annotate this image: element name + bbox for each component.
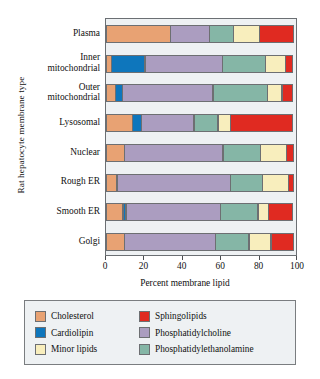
label-line: Smooth ER bbox=[14, 206, 100, 216]
label-line: Golgi bbox=[14, 236, 100, 246]
bar-segment bbox=[124, 144, 223, 162]
bar-segment bbox=[126, 203, 221, 221]
bar-segment bbox=[106, 174, 117, 192]
legend-label: Phosphatidylcholine bbox=[155, 328, 231, 338]
bar-segment bbox=[286, 144, 294, 162]
x-axis-tick bbox=[296, 256, 297, 260]
label-line: Plasma bbox=[14, 28, 100, 38]
legend-item: Cholesterol bbox=[35, 311, 139, 322]
stacked-bar bbox=[106, 55, 296, 73]
bar-segment bbox=[141, 114, 194, 132]
bar-segment bbox=[258, 203, 269, 221]
x-axis-tick-label: 40 bbox=[166, 261, 198, 271]
legend-label: Minor lipids bbox=[51, 344, 97, 354]
bar-segment bbox=[259, 25, 293, 43]
y-axis-category-labels: PlasmaInnermitochondrialOutermitochondri… bbox=[14, 18, 100, 256]
x-axis-tick-label: 0 bbox=[89, 261, 121, 271]
bar-segment bbox=[106, 233, 125, 251]
bar-segment bbox=[218, 114, 231, 132]
stacked-bar bbox=[106, 144, 296, 162]
legend-swatch bbox=[35, 311, 46, 322]
bar-segment bbox=[267, 84, 282, 102]
bar-row bbox=[106, 114, 296, 132]
legend: CholesterolSphingolipidsCardiolipinPhosp… bbox=[24, 300, 296, 365]
bar-segment bbox=[233, 25, 260, 43]
x-axis-tick bbox=[143, 256, 144, 260]
stacked-bar bbox=[106, 203, 296, 221]
x-axis-tick bbox=[220, 256, 221, 260]
label-line: mitochondrial bbox=[14, 92, 100, 102]
legend-item: Minor lipids bbox=[35, 344, 139, 355]
bar-segment bbox=[230, 174, 262, 192]
label-line: Lysosomal bbox=[14, 117, 100, 127]
bar-segment bbox=[282, 84, 293, 102]
x-axis-title: Percent membrane lipid bbox=[60, 278, 310, 288]
legend-swatch bbox=[139, 344, 150, 355]
y-axis-tick-label: Lysosomal bbox=[14, 117, 100, 127]
legend-label: Sphingolipids bbox=[155, 311, 207, 321]
bar-segment bbox=[215, 233, 249, 251]
stacked-bar bbox=[106, 174, 296, 192]
legend-item: Phosphatidylcholine bbox=[139, 327, 291, 338]
bar-segment bbox=[117, 174, 231, 192]
bar-segment bbox=[106, 114, 133, 132]
y-axis-tick-label: Smooth ER bbox=[14, 206, 100, 216]
label-line: Inner bbox=[14, 52, 100, 62]
legend-swatch bbox=[35, 344, 46, 355]
legend-entries: CholesterolSphingolipidsCardiolipinPhosp… bbox=[35, 308, 291, 358]
label-line: mitochondrial bbox=[14, 63, 100, 73]
bar-segment bbox=[106, 144, 125, 162]
stacked-bar bbox=[106, 84, 296, 102]
bar-row bbox=[106, 174, 296, 192]
bar-segment bbox=[209, 25, 234, 43]
y-axis-tick-label: Outermitochondrial bbox=[14, 82, 100, 103]
stacked-bar bbox=[106, 233, 296, 251]
bar-segment bbox=[106, 25, 171, 43]
stacked-bar-chart-figure: Rat hepatocyte membrane type PlasmaInner… bbox=[0, 0, 320, 379]
bar-segment bbox=[262, 174, 289, 192]
bar-segment bbox=[260, 144, 287, 162]
label-line: Nuclear bbox=[14, 147, 100, 157]
bar-row bbox=[106, 55, 296, 73]
legend-label: Cardiolipin bbox=[51, 328, 93, 338]
bar-segment bbox=[213, 84, 268, 102]
y-axis-tick-label: Innermitochondrial bbox=[14, 52, 100, 73]
y-axis-tick-label: Plasma bbox=[14, 28, 100, 38]
bar-row bbox=[106, 84, 296, 102]
y-axis-tick-label: Nuclear bbox=[14, 147, 100, 157]
legend-swatch bbox=[139, 327, 150, 338]
legend-label: Phosphatidylethanolamine bbox=[155, 344, 254, 354]
bar-segment bbox=[220, 203, 258, 221]
bar-segment bbox=[249, 233, 272, 251]
bar-segment bbox=[194, 114, 219, 132]
bar-segment bbox=[122, 84, 213, 102]
legend-label: Cholesterol bbox=[51, 311, 94, 321]
plot-panel bbox=[105, 18, 297, 256]
bar-segment bbox=[170, 25, 210, 43]
label-line: Outer bbox=[14, 82, 100, 92]
legend-swatch bbox=[139, 311, 150, 322]
x-axis-tick-label: 100 bbox=[281, 261, 313, 271]
bar-segment bbox=[288, 174, 294, 192]
x-axis-tick-label: 20 bbox=[127, 261, 159, 271]
x-axis-tick-label: 80 bbox=[243, 261, 275, 271]
bar-segment bbox=[222, 55, 266, 73]
bar-segment bbox=[106, 203, 123, 221]
legend-swatch bbox=[35, 327, 46, 338]
bar-segment bbox=[124, 233, 215, 251]
bar-segment bbox=[230, 114, 293, 132]
stacked-bar bbox=[106, 25, 296, 43]
legend-item: Phosphatidylethanolamine bbox=[139, 344, 291, 355]
bar-segment bbox=[223, 144, 261, 162]
bar-segment bbox=[145, 55, 223, 73]
x-axis-tick bbox=[259, 256, 260, 260]
bar-row bbox=[106, 233, 296, 251]
bar-segment bbox=[285, 55, 293, 73]
x-axis-tick bbox=[182, 256, 183, 260]
legend-item: Sphingolipids bbox=[139, 311, 291, 322]
bar-segment bbox=[271, 233, 294, 251]
bar-row bbox=[106, 144, 296, 162]
bar-segment bbox=[265, 55, 286, 73]
y-axis-tick-label: Rough ER bbox=[14, 176, 100, 186]
x-axis-tick-label: 60 bbox=[204, 261, 236, 271]
